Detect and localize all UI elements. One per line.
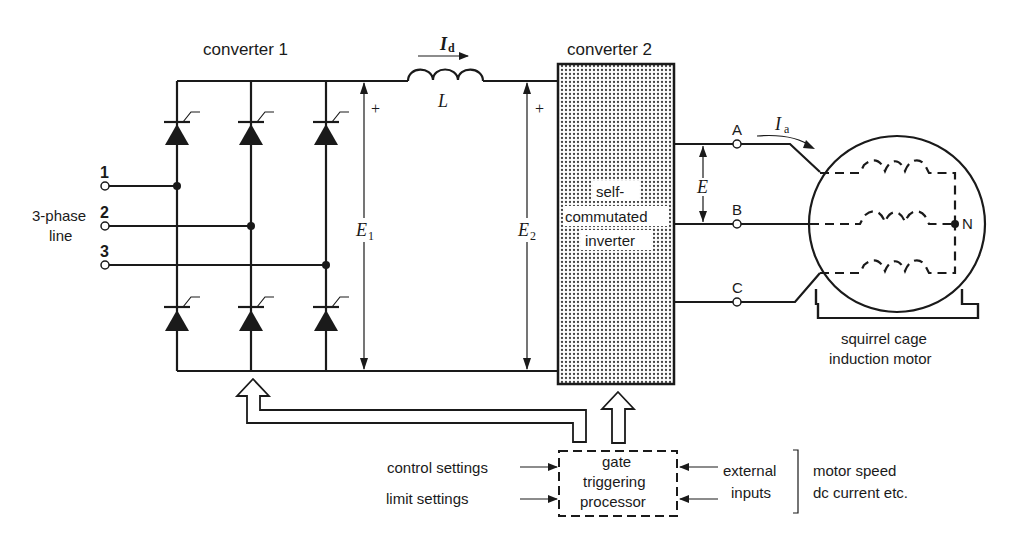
terminal-icon [733, 298, 741, 306]
dc-current-arrow: I d [418, 34, 468, 56]
thyristor-icon [313, 297, 349, 331]
ia-label: I [774, 114, 782, 134]
id-label: I [439, 34, 448, 54]
inductor-icon [408, 70, 483, 82]
svg-text:inverter: inverter [585, 232, 635, 249]
gate-signal-to-converter-1 [237, 379, 586, 442]
terminal-icon [733, 140, 741, 148]
induction-motor: N squirrel cage induction motor [809, 136, 985, 367]
e-label: E [696, 177, 708, 197]
motor-caption: squirrel cage [841, 330, 927, 347]
terminal-icon [101, 261, 109, 269]
svg-text:inputs: inputs [731, 484, 771, 501]
thyristor-icon [238, 297, 274, 331]
voltage-e2-arrow: + E 2 [517, 82, 544, 370]
terminal-b-label: B [732, 201, 742, 218]
svg-text:triggering: triggering [583, 473, 646, 490]
thyristor-icon [313, 112, 349, 145]
svg-text:2: 2 [530, 229, 536, 243]
terminal-icon [101, 222, 109, 230]
hollow-arrow-icon [602, 392, 634, 443]
motor-speed-label: motor speed [813, 462, 896, 479]
neutral-dot-icon [951, 220, 959, 228]
phase-1-label: 1 [100, 164, 109, 181]
control-settings-label: control settings [387, 459, 488, 476]
voltage-e1-arrow: + E 1 [355, 82, 380, 370]
line-voltage-arrow: E [696, 146, 708, 222]
svg-text:line: line [49, 227, 72, 244]
e1-label: E [355, 220, 367, 240]
circuit-diagram: converter 1 [0, 0, 1015, 548]
phase-c-wire [674, 273, 820, 302]
neutral-label: N [962, 215, 973, 232]
dc-link: L I d + E 2 [408, 34, 558, 370]
converter-2: converter 2 self- commutated inverter [558, 40, 674, 384]
phase-2-label: 2 [100, 204, 109, 221]
svg-text:dc current etc.: dc current etc. [813, 484, 908, 501]
thyristor-icon [164, 112, 200, 145]
phase-a-wire [674, 144, 820, 172]
svg-text:d: d [448, 41, 455, 55]
svg-text:+: + [535, 100, 544, 117]
svg-text:processor: processor [580, 493, 646, 510]
phase-3-label: 3 [100, 243, 109, 260]
terminal-c-label: C [732, 279, 743, 296]
thyristor-icon [238, 112, 274, 145]
svg-text:induction motor: induction motor [829, 350, 932, 367]
svg-text:1: 1 [368, 229, 374, 243]
junction-dot-icon [173, 182, 181, 190]
converter-1-label: converter 1 [203, 40, 288, 59]
terminal-icon [733, 220, 741, 228]
svg-text:gate: gate [602, 453, 631, 470]
converter-1: converter 1 [164, 40, 558, 371]
output-lines: A B C E I a [674, 114, 820, 306]
thyristor-icon [164, 297, 200, 331]
gate-signal-to-converter-2 [602, 392, 634, 443]
three-phase-label: 3-phase [32, 207, 86, 224]
three-phase-input: 1 2 3 3-phase line [32, 164, 330, 269]
external-inputs-label: external [723, 462, 776, 479]
svg-text:commutated: commutated [565, 208, 648, 225]
svg-text:+: + [371, 100, 380, 117]
terminal-icon [101, 182, 109, 190]
bracket-icon [793, 450, 798, 513]
svg-text:self-: self- [596, 183, 624, 200]
svg-text:a: a [784, 122, 790, 136]
gate-triggering-processor: gate triggering processor control settin… [386, 450, 908, 516]
converter-2-label: converter 2 [567, 40, 652, 59]
limit-settings-label: limit settings [386, 490, 469, 507]
terminal-a-label: A [732, 121, 742, 138]
e2-label: E [517, 220, 529, 240]
hollow-arrow-icon [237, 379, 586, 442]
inductor-label: L [437, 91, 448, 111]
junction-dot-icon [322, 261, 330, 269]
junction-dot-icon [247, 222, 255, 230]
